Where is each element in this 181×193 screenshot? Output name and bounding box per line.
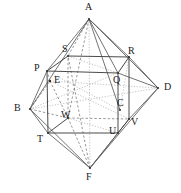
label-D: D — [164, 82, 171, 92]
geometry-figure: A B D F E C P Q R S T U V W — [0, 0, 181, 193]
edge-D-R — [129, 57, 158, 88]
edge-A-Wdash — [68, 19, 89, 118]
vertex-A — [88, 18, 90, 20]
vertex-C — [119, 109, 121, 111]
vertex-U — [117, 132, 119, 134]
edge-T-W — [48, 118, 68, 133]
label-F: F — [86, 172, 92, 182]
vertex-P — [46, 70, 48, 72]
edge-B-C — [30, 88, 158, 109]
label-A: A — [85, 2, 92, 12]
label-S: S — [62, 44, 68, 54]
vertex-E — [49, 80, 51, 82]
edge-W-V — [68, 118, 129, 119]
vertex-dots — [29, 18, 159, 169]
label-E: E — [54, 75, 60, 85]
figure-canvas — [0, 0, 181, 193]
edge-S-R — [68, 56, 129, 57]
edge-F-T — [48, 133, 90, 168]
label-V: V — [131, 117, 138, 127]
edge-A-Q — [89, 19, 118, 73]
edge-D-Q — [118, 73, 158, 88]
edge-B-P — [30, 71, 47, 109]
label-C: C — [117, 98, 124, 108]
vertex-S — [67, 55, 69, 57]
label-P: P — [34, 63, 40, 73]
edge-A-C — [89, 19, 120, 110]
vertex-V — [128, 118, 130, 120]
label-T: T — [37, 134, 43, 144]
edge-F-W — [68, 118, 90, 168]
label-B: B — [14, 103, 21, 113]
dotted-edges — [30, 19, 158, 168]
edge-A-R — [89, 19, 129, 57]
label-W: W — [61, 110, 70, 120]
edge-F-Sdash — [68, 56, 90, 168]
label-Q: Q — [113, 75, 120, 85]
label-U: U — [109, 126, 116, 136]
vertex-D — [157, 87, 159, 89]
edge-B-T — [30, 109, 48, 133]
octahedron-edges — [30, 19, 158, 168]
vertex-B — [29, 108, 31, 110]
label-R: R — [128, 46, 135, 56]
vertex-R — [128, 56, 130, 58]
vertex-T — [47, 132, 49, 134]
edge-T-P — [47, 71, 48, 133]
edge-V-U — [118, 119, 129, 133]
vertex-F — [89, 167, 91, 169]
